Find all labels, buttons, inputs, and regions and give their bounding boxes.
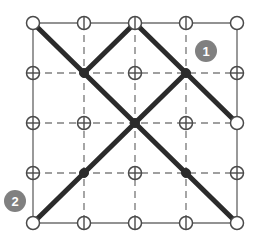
solid-node-dot	[80, 69, 89, 78]
node-r1c0[interactable]	[27, 67, 40, 80]
solid-node-dot	[131, 119, 140, 128]
node-r4c2[interactable]	[129, 217, 142, 230]
node-ring	[27, 17, 40, 30]
node-r0c4[interactable]	[231, 17, 244, 30]
badge-1[interactable]: 1	[195, 40, 217, 62]
node-r0c3[interactable]	[180, 17, 193, 30]
node-ring	[231, 117, 244, 130]
badge-2[interactable]: 2	[4, 190, 26, 212]
node-r3c0[interactable]	[27, 167, 40, 180]
node-r2c4[interactable]	[231, 117, 244, 130]
node-r2c0[interactable]	[27, 117, 40, 130]
node-r1c1[interactable]	[80, 69, 89, 78]
badge-label: 1	[202, 44, 209, 59]
node-r2c1[interactable]	[78, 117, 91, 130]
node-r3c2[interactable]	[129, 167, 142, 180]
solid-node-dot	[80, 169, 89, 178]
node-r3c3[interactable]	[182, 169, 191, 178]
grid-diagram-svg: 12	[0, 0, 255, 245]
diagram-canvas: 12	[0, 0, 255, 245]
node-ring	[231, 217, 244, 230]
node-r4c0[interactable]	[27, 217, 40, 230]
node-r0c0[interactable]	[27, 17, 40, 30]
node-r4c4[interactable]	[231, 217, 244, 230]
node-r0c1[interactable]	[78, 17, 91, 30]
node-r1c2[interactable]	[129, 67, 142, 80]
node-r1c3[interactable]	[182, 69, 191, 78]
node-r4c3[interactable]	[180, 217, 193, 230]
node-r4c1[interactable]	[78, 217, 91, 230]
node-r0c2[interactable]	[129, 17, 142, 30]
node-ring	[27, 217, 40, 230]
node-r2c3[interactable]	[180, 117, 193, 130]
node-r3c1[interactable]	[80, 169, 89, 178]
node-r1c4[interactable]	[231, 67, 244, 80]
badge-label: 2	[11, 194, 18, 209]
node-ring	[231, 17, 244, 30]
solid-node-dot	[182, 69, 191, 78]
node-r3c4[interactable]	[231, 167, 244, 180]
node-r2c2[interactable]	[131, 119, 140, 128]
solid-node-dot	[182, 169, 191, 178]
